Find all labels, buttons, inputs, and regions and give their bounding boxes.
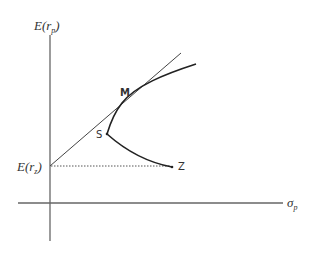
intercept-label: E(rz): [17, 160, 42, 176]
y-axis-label: E(rp): [34, 19, 60, 35]
point-s-marker: [106, 133, 109, 136]
diagram-canvas: [0, 0, 310, 254]
point-m-label: M: [120, 88, 130, 98]
tangent-line: [50, 53, 181, 166]
frontier-curve: [107, 64, 196, 167]
point-z-label: Z: [178, 162, 185, 172]
point-s-label: S: [96, 130, 102, 140]
x-axis-label: σp: [287, 196, 297, 212]
point-z-marker: [171, 166, 174, 169]
